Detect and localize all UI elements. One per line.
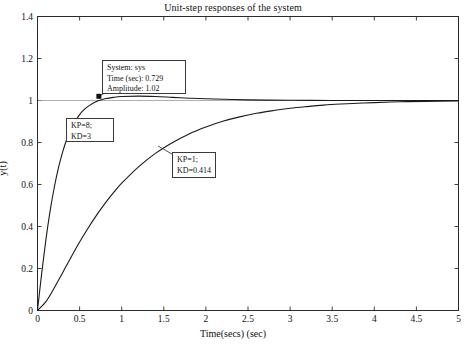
data-tip-system: System: sys [107, 63, 181, 74]
series-label-slow-kp: KP=1; [177, 155, 211, 166]
y-tick-label: 0.4 [8, 222, 33, 232]
x-tick-label: 1 [119, 314, 124, 324]
plot-area [0, 0, 466, 346]
y-tick-label: 0.2 [8, 264, 33, 274]
x-tick-label: 3.5 [326, 314, 338, 324]
x-tick-label: 2.5 [242, 314, 254, 324]
x-axis-label: Time(secs) (sec) [0, 328, 466, 339]
y-tick-label: 0 [8, 306, 33, 316]
y-tick-label: 0.8 [8, 138, 33, 148]
x-tick-label: 4 [372, 314, 377, 324]
x-tick-label: 3 [288, 314, 293, 324]
data-tip-time: Time (sec): 0.729 [107, 74, 181, 85]
y-tick-label: 1 [8, 96, 33, 106]
y-axis-label: y(t) [0, 161, 8, 175]
series-label-slow-kd: KD=0.414 [177, 166, 211, 177]
y-tick-label: 1.2 [8, 54, 33, 64]
series-label-fast-kd: KD=3 [71, 132, 109, 143]
y-tick-label: 0.6 [8, 180, 33, 190]
x-tick-label: 0.5 [74, 314, 86, 324]
data-tip-amplitude: Amplitude: 1.02 [107, 84, 181, 95]
series-label-fast[interactable]: KP=8; KD=3 [66, 118, 114, 142]
x-tick-label: 4.5 [410, 314, 422, 324]
series-label-slow[interactable]: KP=1; KD=0.414 [172, 152, 216, 178]
x-tick-label: 0 [35, 314, 40, 324]
data-tip-box[interactable]: System: sys Time (sec): 0.729 Amplitude:… [102, 60, 186, 94]
x-tick-label: 1.5 [158, 314, 170, 324]
plot-frame [38, 17, 459, 311]
x-tick-label: 2 [204, 314, 209, 324]
data-point-marker[interactable] [96, 94, 101, 99]
x-tick-label: 5 [456, 314, 461, 324]
series-label-fast-kp: KP=8; [71, 121, 109, 132]
figure-canvas: Unit-step responses of the system Time(s… [0, 0, 466, 346]
y-tick-label: 1.4 [8, 12, 33, 22]
